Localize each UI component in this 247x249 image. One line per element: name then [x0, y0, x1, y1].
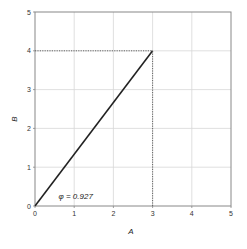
x-axis-label: A — [127, 227, 133, 236]
y-axis-label: B — [10, 116, 19, 122]
x-tick-label: 5 — [229, 210, 233, 217]
y-tick-label: 1 — [27, 164, 31, 171]
chart: 012345 012345 A B φ = 0.927 — [0, 0, 247, 249]
y-tick-label: 3 — [27, 86, 31, 93]
grid-lines — [35, 12, 231, 206]
x-tick-label: 0 — [33, 210, 37, 217]
y-tick-label: 0 — [27, 203, 31, 210]
x-tick-labels: 012345 — [33, 206, 233, 217]
x-tick-label: 4 — [190, 210, 194, 217]
x-tick-label: 1 — [72, 210, 76, 217]
axes-frame — [35, 12, 231, 206]
y-tick-label: 2 — [27, 125, 31, 132]
angle-annotation: φ = 0.927 — [59, 192, 94, 201]
annotations: φ = 0.927 — [59, 192, 94, 201]
y-tick-label: 4 — [27, 47, 31, 54]
plot-area: 012345 012345 A B φ = 0.927 — [0, 0, 247, 249]
y-tick-label: 5 — [27, 9, 31, 16]
y-tick-labels: 012345 — [27, 9, 35, 210]
x-tick-label: 2 — [111, 210, 115, 217]
plot-frame — [35, 12, 231, 206]
x-tick-label: 3 — [151, 210, 155, 217]
